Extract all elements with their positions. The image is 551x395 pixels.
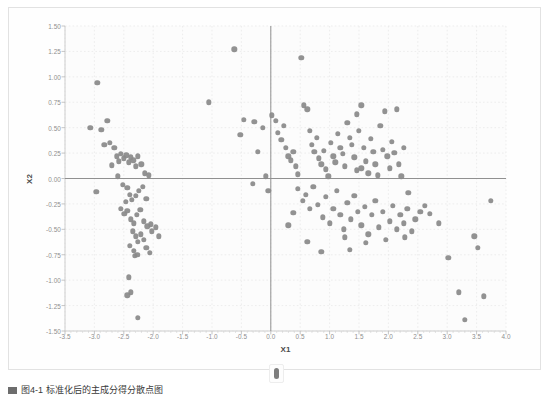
y-tick-label: 1.25 xyxy=(48,48,61,55)
scatter-plot: -1.50-1.25-1.00-0.75-0.50-0.250.000.250.… xyxy=(9,8,542,371)
y-tick-label: -0.75 xyxy=(46,251,61,258)
y-tick-label: 0.75 xyxy=(48,99,61,106)
x-tick-label: -2.5 xyxy=(118,333,129,340)
x-tick-label: 4.0 xyxy=(501,333,510,340)
figure-card: -1.50-1.25-1.00-0.75-0.50-0.250.000.250.… xyxy=(8,7,541,370)
scroll-thumb-grip xyxy=(274,368,279,379)
plot-area xyxy=(65,26,506,331)
y-axis-title: X2 xyxy=(23,26,35,331)
y-tick-label: 0.50 xyxy=(48,124,61,131)
x-tick-label: 2.5 xyxy=(413,333,422,340)
grid-lines xyxy=(65,26,506,331)
x-tick-label: -1.0 xyxy=(206,333,217,340)
x-tick-label: 3.0 xyxy=(443,333,452,340)
y-tick-label: -1.00 xyxy=(46,277,61,284)
x-tick-label: -3.5 xyxy=(59,333,70,340)
x-axis-title: X1 xyxy=(65,345,506,354)
figure-screenshot: -1.50-1.25-1.00-0.75-0.50-0.250.000.250.… xyxy=(0,0,551,395)
figure-caption: 图4-1 标准化后的主成分得分散点图 xyxy=(8,385,368,395)
y-tick-label: -1.25 xyxy=(46,302,61,309)
y-tick-label: -0.50 xyxy=(46,226,61,233)
x-tick-label: -1.5 xyxy=(177,333,188,340)
caption-text: 图4-1 标准化后的主成分得分散点图 xyxy=(21,385,163,395)
y-tick-label: -0.25 xyxy=(46,200,61,207)
x-tick-label: -0.5 xyxy=(236,333,247,340)
x-tick-label: 1.0 xyxy=(325,333,334,340)
caption-marker xyxy=(8,387,17,394)
x-tick-label: -3.0 xyxy=(89,333,100,340)
x-tick-label: 0.5 xyxy=(296,333,305,340)
x-tick-label: 1.5 xyxy=(354,333,363,340)
y-tick-label: 1.50 xyxy=(48,23,61,30)
y-tick-label: 1.00 xyxy=(48,73,61,80)
y-tick-label: 0.00 xyxy=(48,175,61,182)
scroll-thumb[interactable] xyxy=(269,364,284,383)
x-tick-label: 0.0 xyxy=(266,333,275,340)
x-tick-label: -2.0 xyxy=(147,333,158,340)
y-tick-label: 0.25 xyxy=(48,150,61,157)
x-tick-label: 2.0 xyxy=(384,333,393,340)
x-tick-label: 3.5 xyxy=(472,333,481,340)
y-axis-title-text: X2 xyxy=(25,174,34,184)
